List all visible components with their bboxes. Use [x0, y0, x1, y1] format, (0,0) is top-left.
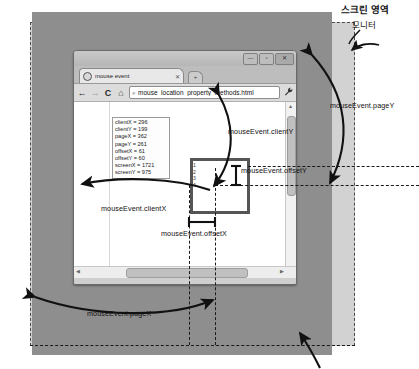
- label-pagex: mouseEvent.pageX: [87, 309, 151, 318]
- maximize-button[interactable]: ▫: [259, 53, 274, 65]
- label-clientx: mouseEvent.clientX: [101, 204, 166, 213]
- tab-close-icon[interactable]: ✕: [175, 73, 180, 80]
- address-bar-value: mouse_location_property_methods.html: [138, 89, 254, 96]
- address-bar[interactable]: ⌕ mouse_location_property_methods.html: [129, 86, 280, 99]
- scroll-right-icon[interactable]: ▶: [280, 268, 284, 274]
- readout-line: offsetX = 61: [115, 148, 167, 155]
- horizontal-scroll-thumb[interactable]: [126, 268, 248, 278]
- window-controls: — ▫ ✕: [243, 53, 294, 65]
- close-button[interactable]: ✕: [275, 53, 294, 65]
- tab-mouse-event[interactable]: mouse event ✕: [79, 68, 184, 83]
- label-pagey: mouseEvent.pageY: [330, 101, 394, 110]
- arrow-screen-area: [352, 44, 379, 50]
- tab-strip: mouse event ✕ +: [74, 66, 296, 83]
- readout-line: pageX = 362: [115, 133, 167, 140]
- browser-toolbar: ← → C ⌂ ⌕ mouse_location_property_method…: [74, 83, 296, 101]
- mouse-values-readout: clientX = 296 clientY = 199 pageX = 362 …: [112, 117, 170, 179]
- home-icon[interactable]: ⌂: [116, 88, 126, 98]
- readout-line: clientX = 296: [115, 119, 167, 126]
- page-margin-rule: [109, 102, 110, 267]
- target-element-line-numbers: 1 2 3 4: [193, 162, 203, 188]
- scroll-up-icon[interactable]: ▲: [288, 103, 293, 109]
- diagram-canvas: — ▫ ✕ mouse event ✕ + ← → C ⌂ ⌕ mouse_lo…: [0, 0, 419, 369]
- back-icon[interactable]: ←: [77, 88, 87, 98]
- label-offsety: mouseEvent.offsetY: [241, 166, 307, 175]
- label-clienty: mouseEvent.clientY: [228, 127, 293, 136]
- forward-icon[interactable]: →: [90, 88, 100, 98]
- readout-line: offsetY = 60: [115, 155, 167, 162]
- monitor-label: 모니터: [352, 18, 376, 30]
- label-offsetx: mouseEvent.offsetX: [161, 229, 227, 238]
- horizontal-scrollbar[interactable]: ◀ ▶: [74, 266, 296, 278]
- screen-area-label: 스크린 영역: [341, 2, 389, 16]
- favicon-icon: [83, 72, 92, 81]
- reload-icon[interactable]: C: [103, 88, 113, 98]
- tab-label: mouse event: [95, 73, 173, 79]
- readout-line: pageY = 261: [115, 141, 167, 148]
- minimize-button[interactable]: —: [243, 53, 258, 65]
- browser-titlebar: — ▫ ✕: [74, 51, 296, 66]
- search-icon: ⌕: [132, 89, 136, 97]
- readout-line: screenX = 1721: [115, 162, 167, 169]
- readout-line: screenY = 975: [115, 169, 167, 176]
- wrench-menu-icon[interactable]: [283, 87, 293, 98]
- line-number: 4: [193, 182, 203, 189]
- readout-line: clientY = 199: [115, 126, 167, 133]
- scroll-left-icon[interactable]: ◀: [76, 268, 80, 274]
